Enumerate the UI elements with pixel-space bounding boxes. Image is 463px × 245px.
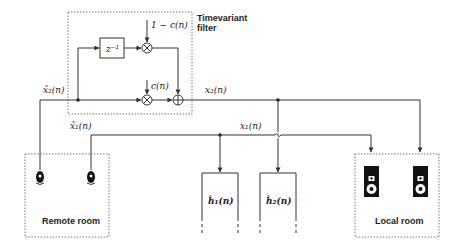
signal-x1-tilde-label: x̃₁(n) xyxy=(70,121,92,131)
loudspeaker-icon xyxy=(413,166,428,197)
diagram-canvas: Timevariant filter z⁻¹ 1 − c(n) c(n) x̃₂… xyxy=(0,0,463,245)
filter-title-line1: Timevariant xyxy=(197,13,247,23)
loudspeaker-icon xyxy=(364,166,379,197)
signal-x2-tilde-label: x̃₂(n) xyxy=(43,85,65,95)
signal-x2-label: x₂(n) xyxy=(205,85,227,95)
filter-title-line2: filter xyxy=(197,23,217,33)
gain-top-label: 1 − c(n) xyxy=(151,20,188,30)
h2-filter-block: ĥ₂(n) xyxy=(260,173,296,235)
signal-x1-label: x₁(n) xyxy=(240,121,262,131)
h1-label: ĥ₁(n) xyxy=(208,195,234,206)
gain-bottom-label: c(n) xyxy=(151,81,169,91)
microphone-icon xyxy=(36,171,44,185)
microphone-icon xyxy=(87,171,95,185)
remote-room-label: Remote room xyxy=(42,216,100,226)
h1-filter-block: ĥ₁(n) xyxy=(202,173,238,235)
h2-label: ĥ₂(n) xyxy=(266,195,292,206)
delay-label: z⁻¹ xyxy=(105,44,119,54)
local-room-label: Local room xyxy=(375,216,424,226)
